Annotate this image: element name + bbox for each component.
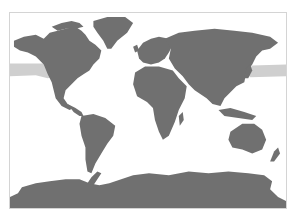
antarctica <box>10 171 286 208</box>
highlight-band-east <box>246 64 286 77</box>
australia <box>228 124 266 154</box>
madagascar <box>179 112 184 126</box>
antarctic-peninsula <box>87 171 101 185</box>
map-canvas <box>10 13 286 208</box>
world-map: North Pacific band <box>9 12 287 209</box>
south-america <box>79 114 115 173</box>
central-america <box>68 104 84 116</box>
greenland <box>93 17 133 49</box>
africa <box>133 66 187 139</box>
new-zealand <box>270 148 280 162</box>
southeast-asia-islands <box>218 108 256 120</box>
